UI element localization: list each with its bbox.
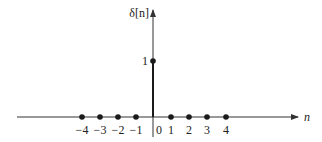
point-n1 (168, 114, 174, 120)
point-n-4 (79, 114, 85, 120)
tick-label: 1 (168, 123, 174, 137)
tick-label: 0 (156, 123, 162, 137)
tick-label: 3 (204, 123, 210, 137)
y-tick-1: 1 (142, 54, 148, 68)
tick-label: −3 (94, 123, 107, 137)
x-tick-labels: −4 −3 −2 −1 0 1 2 3 4 (76, 123, 229, 137)
point-n-1 (133, 114, 139, 120)
y-axis-label: δ[n] (129, 6, 149, 20)
point-n-3 (97, 114, 103, 120)
tick-label: −2 (112, 123, 125, 137)
point-n3 (204, 114, 210, 120)
impulse-plot: δ[n] n 1 −4 −3 −2 −1 0 1 2 3 4 (0, 0, 322, 142)
point-n-2 (115, 114, 121, 120)
tick-label: 2 (186, 123, 192, 137)
point-n0 (150, 58, 156, 64)
point-n4 (223, 114, 229, 120)
point-n2 (186, 114, 192, 120)
tick-label: −1 (130, 123, 143, 137)
tick-label: −4 (76, 123, 89, 137)
tick-label: 4 (223, 123, 229, 137)
x-axis-label: n (304, 110, 310, 124)
